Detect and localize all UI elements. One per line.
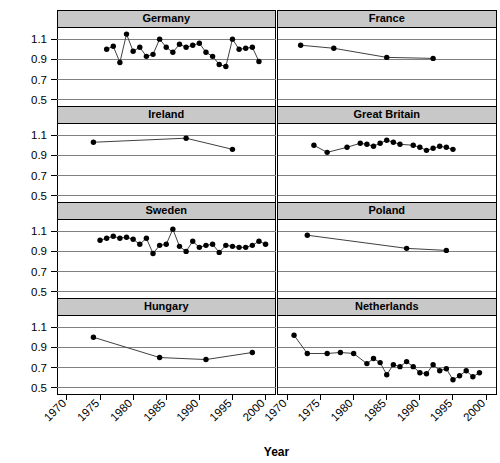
data-point (470, 374, 475, 379)
x-tick-label: 1985 (141, 397, 168, 424)
data-point (250, 45, 255, 50)
data-point (97, 238, 102, 243)
data-point (144, 236, 149, 241)
x-tick-label: 1970 (262, 397, 289, 424)
data-point (150, 52, 155, 57)
strip-title: Sweden (145, 204, 187, 216)
data-point (124, 235, 129, 240)
data-point (430, 56, 435, 61)
data-point (450, 377, 455, 382)
data-point (157, 243, 162, 248)
data-point (411, 143, 416, 148)
panel-great-britain: Great Britain (278, 106, 497, 202)
data-point (236, 245, 241, 250)
data-point (137, 45, 142, 50)
data-point (104, 236, 109, 241)
y-tick-label: 0.7 (31, 266, 47, 278)
y-tick-label: 0.9 (31, 341, 47, 353)
data-point (371, 356, 376, 361)
data-point (444, 248, 449, 253)
data-point (351, 351, 356, 356)
panel-france: France (278, 10, 497, 106)
data-point (417, 370, 422, 375)
data-point (197, 41, 202, 46)
y-tick-label: 0.9 (31, 245, 47, 257)
data-point (243, 46, 248, 51)
data-point (364, 142, 369, 147)
y-tick-label: 0.5 (31, 286, 47, 298)
data-point (450, 147, 455, 152)
data-point (358, 141, 363, 146)
data-point (157, 36, 162, 41)
data-point (190, 239, 195, 244)
data-point (164, 242, 169, 247)
data-point (210, 242, 215, 247)
data-point (430, 146, 435, 151)
data-point (130, 237, 135, 242)
data-point (197, 245, 202, 250)
y-tick-label: 0.5 (31, 94, 47, 106)
data-point (230, 36, 235, 41)
x-tick-label: 1980 (108, 397, 135, 424)
strip-title: Germany (142, 12, 191, 24)
panel-netherlands: Netherlands (278, 298, 497, 394)
y-tick-label: 1.1 (31, 33, 47, 45)
data-point (91, 335, 96, 340)
x-tick-label: 2000 (461, 397, 488, 424)
data-point (424, 148, 429, 153)
data-point (298, 43, 303, 48)
data-point (210, 54, 215, 59)
data-point (263, 242, 268, 247)
x-tick-label: 1975 (295, 397, 322, 424)
data-point (291, 333, 296, 338)
data-point (305, 351, 310, 356)
data-point (104, 47, 109, 52)
data-point (111, 234, 116, 239)
data-point (190, 43, 195, 48)
data-point (364, 361, 369, 366)
data-point (391, 362, 396, 367)
data-point (256, 59, 261, 64)
data-point (324, 150, 329, 155)
data-point (477, 370, 482, 375)
x-tick-label: 1990 (395, 397, 422, 424)
x-tick-label: 1970 (42, 397, 69, 424)
panel-sweden: Sweden (57, 202, 276, 298)
data-point (384, 55, 389, 60)
panel-germany: Germany (57, 10, 276, 106)
x-tick-label: 1980 (328, 397, 355, 424)
data-point (384, 372, 389, 377)
panel-poland: Poland (278, 202, 497, 298)
data-point (397, 364, 402, 369)
y-tick-label: 0.5 (31, 190, 47, 202)
strip-title: Poland (368, 204, 405, 216)
data-point (164, 45, 169, 50)
x-tick-label: 1995 (428, 397, 455, 424)
data-point (150, 251, 155, 256)
data-point (344, 145, 349, 150)
data-point (223, 243, 228, 248)
data-point (223, 64, 228, 69)
data-point (404, 359, 409, 364)
data-point (250, 350, 255, 355)
data-point (305, 233, 310, 238)
x-tick-label: 1985 (362, 397, 389, 424)
strip-title: Netherlands (355, 300, 419, 312)
data-point (236, 47, 241, 52)
data-point (183, 135, 188, 140)
data-point (331, 46, 336, 51)
data-point (457, 373, 462, 378)
y-tick-label: 1.1 (31, 321, 47, 333)
data-point (437, 368, 442, 373)
data-point (144, 54, 149, 59)
data-point (157, 355, 162, 360)
data-point (117, 60, 122, 65)
data-point (377, 360, 382, 365)
trellis-chart-figure: GermanyFranceIrelandGreat BritainSwedenP… (0, 0, 500, 463)
data-point (111, 44, 116, 49)
strip-title: Hungary (144, 300, 190, 312)
data-point (417, 145, 422, 150)
data-point (183, 45, 188, 50)
data-point (437, 144, 442, 149)
data-point (397, 142, 402, 147)
